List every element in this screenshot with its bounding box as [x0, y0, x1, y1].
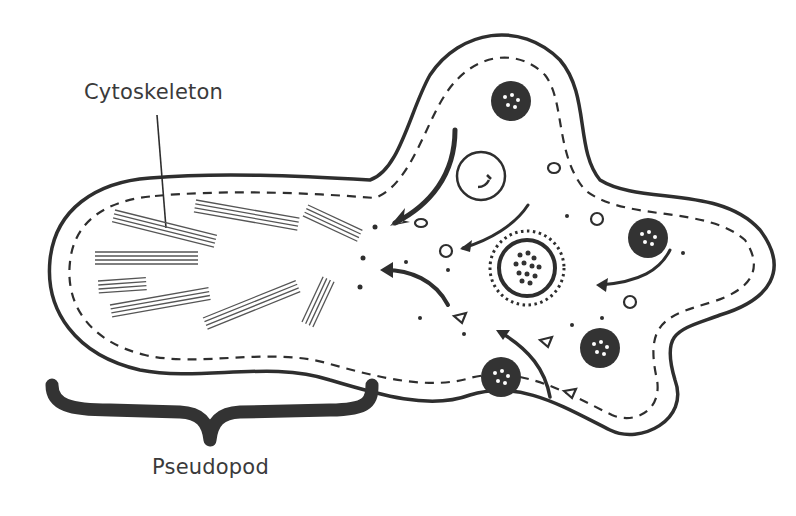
pseudopod-label: Pseudopod	[152, 455, 269, 479]
pseudopod-brace	[52, 385, 372, 440]
cytoskeleton-label: Cytoskeleton	[84, 80, 223, 104]
diagram-graphic	[0, 0, 796, 516]
contractile-vacuole	[457, 152, 505, 200]
amoeba-diagram: Cytoskeleton Pseudopod	[0, 0, 796, 516]
